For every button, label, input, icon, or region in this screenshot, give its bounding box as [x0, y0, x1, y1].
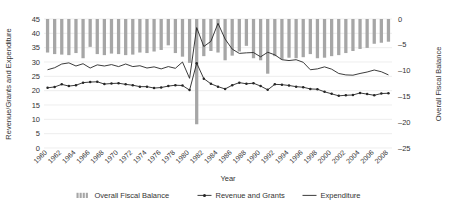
legend: Overall Fiscal BalanceRevenue and Grants…: [77, 191, 361, 200]
x-tick-label: 1996: [288, 149, 304, 165]
data-point-1985: [224, 88, 227, 91]
data-point-1983: [210, 83, 213, 86]
y-tick-label: 45: [32, 15, 40, 24]
data-point-2008: [387, 92, 390, 95]
legend-label: Overall Fiscal Balance: [95, 191, 170, 200]
x-tick-label: 1972: [118, 149, 134, 165]
legend-item-2: Expenditure: [303, 191, 361, 200]
legend-item-0: Overall Fiscal Balance: [77, 191, 170, 200]
data-point-1962: [61, 83, 64, 86]
data-point-1967: [96, 81, 99, 84]
y2-tick-label: –10: [398, 66, 411, 75]
data-point-1976: [160, 86, 163, 89]
bar-1967: [96, 19, 99, 54]
chart-container: 051015202530354045 0–5–10–15–20–25 19601…: [0, 0, 449, 211]
bar-1971: [124, 19, 127, 55]
bar-2004: [358, 19, 361, 49]
bar-1997: [309, 19, 312, 54]
data-point-1975: [153, 87, 156, 90]
x-tick-label: 1962: [47, 149, 63, 165]
data-point-1969: [110, 82, 113, 85]
bar-1969: [110, 19, 113, 54]
bar-2005: [366, 19, 369, 48]
data-point-1997: [309, 88, 312, 91]
bar-1994: [287, 19, 290, 58]
data-point-1998: [316, 88, 319, 91]
bar-1974: [145, 19, 148, 53]
x-tick-label: 1984: [203, 149, 219, 165]
bar-2000: [330, 19, 333, 56]
legend-bar-swatch: [77, 193, 79, 198]
y-tick-label: 5: [36, 129, 40, 138]
data-point-1986: [231, 84, 234, 87]
y-tick-label: 25: [32, 72, 40, 81]
data-point-1987: [238, 81, 241, 84]
bar-2006: [373, 19, 376, 44]
bar-1970: [117, 19, 120, 54]
x-tick-label: 1990: [245, 149, 261, 165]
x-tick-label: 1992: [260, 149, 276, 165]
data-point-1979: [181, 84, 184, 87]
y2-axis-title: Overall Fiscal Balance: [434, 47, 443, 122]
data-point-2007: [380, 92, 383, 95]
data-point-1993: [281, 83, 284, 86]
data-point-1973: [139, 85, 142, 88]
data-point-2002: [345, 94, 348, 97]
data-point-1977: [167, 85, 170, 88]
data-point-2003: [352, 94, 355, 97]
data-point-1996: [302, 86, 305, 89]
bar-1975: [152, 19, 155, 52]
x-tick-label: 2008: [373, 149, 389, 165]
bar-1980: [188, 19, 191, 63]
bar-1991: [266, 19, 269, 74]
y-tick-label: 20: [32, 86, 40, 95]
legend-item-1: Revenue and Grants: [198, 191, 285, 200]
bar-1983: [209, 19, 212, 51]
x-tick-label: 1970: [103, 149, 119, 165]
x-tick-label: 1986: [217, 149, 233, 165]
data-point-1981: [195, 62, 198, 65]
bar-1993: [280, 19, 283, 59]
x-tick-label: 1982: [189, 149, 205, 165]
bar-1966: [89, 19, 92, 47]
y-tick-label: 30: [32, 58, 40, 67]
data-point-2004: [359, 92, 362, 95]
x-tick-label: 1964: [61, 149, 77, 165]
data-point-2005: [366, 93, 369, 96]
bar-1996: [302, 19, 305, 57]
bar-1968: [103, 19, 106, 55]
x-axis-ticks: 1960196219641966196819701972197419761978…: [32, 149, 389, 165]
data-point-1968: [103, 83, 106, 86]
data-point-1990: [259, 85, 262, 88]
y2-tick-label: –25: [398, 144, 411, 153]
bar-2001: [337, 19, 340, 55]
data-point-1980: [188, 89, 191, 92]
data-point-1963: [68, 85, 71, 88]
bar-2003: [351, 19, 354, 51]
data-point-1989: [252, 82, 255, 85]
x-tick-label: 2000: [316, 149, 332, 165]
data-point-1982: [203, 77, 206, 80]
bar-1962: [60, 19, 63, 55]
bar-1965: [81, 19, 84, 58]
y2-tick-label: –5: [398, 40, 406, 49]
x-tick-label: 2006: [359, 149, 375, 165]
bar-2002: [344, 19, 347, 53]
y2-tick-label: –20: [398, 118, 411, 127]
data-point-1995: [295, 85, 298, 88]
data-point-1964: [75, 84, 78, 87]
data-point-1984: [217, 85, 220, 88]
y-tick-label: 15: [32, 101, 40, 110]
data-point-2006: [373, 94, 376, 97]
bar-2007: [380, 19, 383, 43]
x-tick-label: 1994: [274, 149, 290, 165]
y-tick-label: 40: [32, 29, 40, 38]
x-axis-title: Year: [220, 174, 236, 183]
data-point-1999: [323, 91, 326, 94]
x-tick-label: 1980: [174, 149, 190, 165]
y-tick-label: 0: [36, 144, 40, 153]
x-tick-label: 2004: [345, 149, 361, 165]
bar-1963: [67, 19, 70, 55]
bar-1998: [316, 19, 319, 58]
data-point-1971: [124, 83, 127, 86]
